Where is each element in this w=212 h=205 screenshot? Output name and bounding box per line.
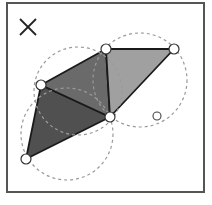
vertex-point-C[interactable]	[101, 44, 111, 54]
query-point[interactable]	[153, 112, 161, 120]
vertex-point-A[interactable]	[21, 154, 31, 164]
diagram-stage	[0, 0, 212, 205]
vertex-point-B[interactable]	[36, 80, 46, 90]
vertex-point-D[interactable]	[105, 112, 115, 122]
delaunay-diagram	[0, 0, 212, 205]
vertex-point-E[interactable]	[169, 44, 179, 54]
